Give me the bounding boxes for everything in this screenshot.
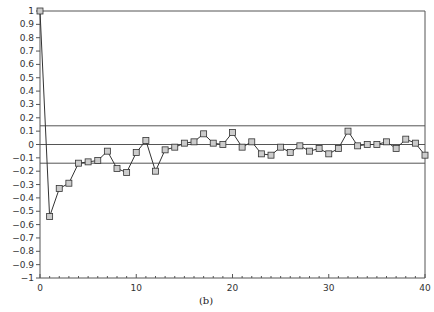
data-point-marker <box>66 180 72 186</box>
y-tick-label: 0.8 <box>20 33 35 43</box>
y-tick-label: 0.6 <box>20 59 35 69</box>
x-tick-label: 40 <box>419 283 431 293</box>
x-tick-label: 0 <box>37 283 43 293</box>
data-point-marker <box>364 142 370 148</box>
data-point-marker <box>153 168 159 174</box>
data-point-marker <box>191 139 197 145</box>
x-tick-label: 20 <box>227 283 239 293</box>
data-point-marker <box>172 144 178 150</box>
y-tick-label: −0.9 <box>12 260 34 270</box>
data-point-marker <box>384 139 390 145</box>
data-point-marker <box>143 137 149 143</box>
y-tick-label: −0.2 <box>12 166 34 176</box>
data-point-marker <box>422 152 428 158</box>
y-tick-label: −0.7 <box>12 233 34 243</box>
data-point-marker <box>239 144 245 150</box>
y-tick-label: 0.5 <box>20 73 34 83</box>
y-tick-label: 0.9 <box>20 19 35 29</box>
data-point-marker <box>355 143 361 149</box>
y-tick-label: −0.6 <box>12 220 34 230</box>
data-point-marker <box>249 139 255 145</box>
data-point-marker <box>307 148 313 154</box>
x-tick-label: 30 <box>323 283 335 293</box>
y-tick-label: 0.2 <box>20 113 34 123</box>
data-point-marker <box>220 142 226 148</box>
chart: 10.90.80.70.60.50.40.30.20.10−0.1−0.2−0.… <box>0 0 434 312</box>
y-tick-label: −0.4 <box>12 193 34 203</box>
x-tick-label: 10 <box>131 283 143 293</box>
data-point-marker <box>181 140 187 146</box>
data-point-marker <box>326 151 332 157</box>
data-point-marker <box>403 136 409 142</box>
x-axis-ticks: 010203040 <box>37 274 431 293</box>
y-tick-label: 0.1 <box>20 126 34 136</box>
data-point-marker <box>268 152 274 158</box>
y-tick-label: −1 <box>21 273 34 283</box>
y-tick-label: −0.8 <box>12 246 34 256</box>
data-point-marker <box>345 128 351 134</box>
data-point-marker <box>47 214 53 220</box>
data-point-marker <box>287 150 293 156</box>
data-point-marker <box>297 143 303 149</box>
data-point-marker <box>76 160 82 166</box>
data-point-marker <box>316 146 322 152</box>
y-tick-label: 0.4 <box>20 86 35 96</box>
data-point-marker <box>210 140 216 146</box>
data-point-marker <box>201 131 207 137</box>
data-point-marker <box>56 186 62 192</box>
data-point-marker <box>85 159 91 165</box>
y-tick-label: 1 <box>28 6 34 16</box>
data-point-marker <box>95 158 101 164</box>
y-tick-label: 0.7 <box>20 46 34 56</box>
figure-caption: (b) <box>199 295 213 306</box>
data-point-marker <box>374 142 380 148</box>
data-point-marker <box>104 148 110 154</box>
data-point-marker <box>230 129 236 135</box>
y-tick-label: −0.5 <box>12 206 34 216</box>
reference-lines <box>40 11 425 163</box>
data-point-marker <box>412 140 418 146</box>
data-point-marker <box>124 170 130 176</box>
data-point-marker <box>37 8 43 14</box>
y-tick-label: 0.3 <box>20 99 34 109</box>
data-point-marker <box>393 146 399 152</box>
data-point-marker <box>114 166 120 172</box>
y-axis-ticks: 10.90.80.70.60.50.40.30.20.10−0.1−0.2−0.… <box>12 6 40 283</box>
data-point-marker <box>258 151 264 157</box>
y-tick-label: −0.1 <box>12 153 34 163</box>
y-tick-label: −0.3 <box>12 180 34 190</box>
series-line <box>40 11 425 217</box>
series-markers <box>37 8 428 220</box>
data-point-marker <box>133 150 139 156</box>
data-point-marker <box>278 144 284 150</box>
y-tick-label: 0 <box>28 140 34 150</box>
data-point-marker <box>162 147 168 153</box>
data-point-marker <box>335 146 341 152</box>
